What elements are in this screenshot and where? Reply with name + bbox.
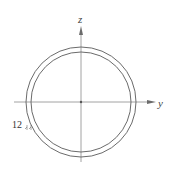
pipe-cross-section-diagram: z y 12 [0,0,177,176]
y-axis-label: y [157,97,163,109]
center-point [80,101,82,103]
y-axis-arrow-icon [147,100,156,104]
z-axis-label: z [77,13,83,25]
thickness-label: 12 [12,119,22,130]
z-axis-arrow-icon [79,26,83,35]
